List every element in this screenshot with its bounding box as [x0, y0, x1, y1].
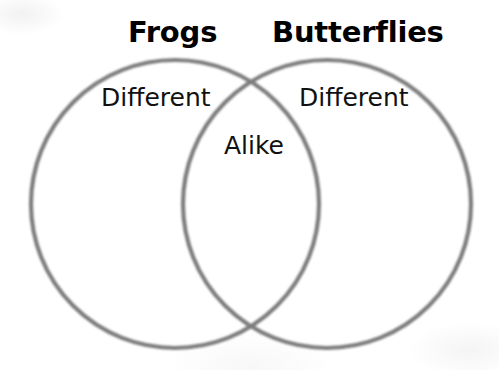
region-label-intersection: Alike	[224, 133, 284, 158]
venn-diagram-canvas: Frogs Butterflies Different Different Al…	[0, 0, 499, 370]
heading-left-circle: Frogs	[128, 18, 217, 47]
region-label-right-only: Different	[299, 85, 409, 110]
region-label-left-only: Different	[101, 85, 211, 110]
venn-circles-svg	[0, 0, 499, 370]
heading-right-circle: Butterflies	[272, 18, 444, 47]
